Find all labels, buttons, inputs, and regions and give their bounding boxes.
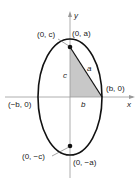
left-covertex-label: (−b, 0) (8, 100, 32, 109)
hypotenuse-label: a (87, 64, 92, 73)
x-axis-arrow-icon (129, 95, 135, 99)
vertical-leg-label: c (63, 71, 67, 80)
right-covertex-label: (b, 0) (106, 84, 125, 93)
bottom-focus-label: (0, −c) (22, 152, 45, 161)
x-axis-label: x (126, 100, 132, 109)
bottom-vertex-label: (0, −a) (73, 158, 97, 167)
horizontal-leg-label: b (81, 100, 86, 109)
top-focus-label: (0, c) (37, 30, 56, 39)
top-vertex-label: (0, a) (72, 29, 91, 38)
ellipse-diagram: y x (0, a) (0, c) (b, 0) (−b, 0) a c b (… (0, 0, 139, 181)
y-axis-arrow-icon (68, 11, 72, 17)
y-axis-label: y (73, 11, 79, 20)
